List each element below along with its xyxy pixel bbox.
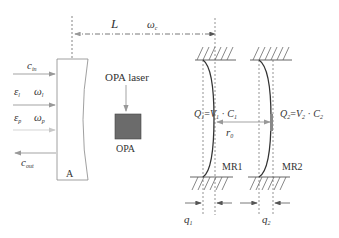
q1-label: q1: [184, 213, 193, 226]
mirror-a-label: A: [66, 168, 74, 179]
output-c-out-label: cout: [21, 156, 34, 169]
cavity-frequency-label: ωc: [147, 18, 158, 31]
input-c-in-label: cin: [27, 59, 37, 72]
mr2-bottom-support: [248, 177, 290, 190]
mirror-a: [57, 59, 88, 180]
mr2-charge-equation: Q2=V2 · C2: [280, 108, 323, 120]
input-epsilon-l-label: εl: [14, 85, 20, 98]
mr1-top-support: [195, 47, 236, 60]
mr2-membrane: [259, 60, 271, 177]
mr1-label: MR1: [222, 161, 243, 172]
opa-box: [115, 114, 141, 139]
q2-label: q2: [262, 213, 271, 226]
opa-box-label: OPA: [116, 143, 136, 154]
input-epsilon-p-label: εp: [14, 111, 21, 124]
mr2-label: MR2: [282, 161, 303, 172]
input-omega-l-label: ωl: [34, 85, 44, 98]
input-omega-p-label: ωp: [34, 111, 45, 124]
r0-label: r0: [226, 126, 233, 139]
mr2-top-support: [250, 47, 292, 60]
mr1-charge-equation: Q1=V1 · C1: [194, 108, 237, 120]
mr2-electrode: [270, 114, 273, 131]
cavity-length-label: L: [110, 16, 118, 31]
mr1-bottom-support: [190, 177, 233, 190]
opa-laser-label: OPA laser: [105, 71, 149, 83]
optomechanical-diagram: L ωc A cin εl ωl εp ωp cout OPA laser OP…: [0, 0, 339, 238]
